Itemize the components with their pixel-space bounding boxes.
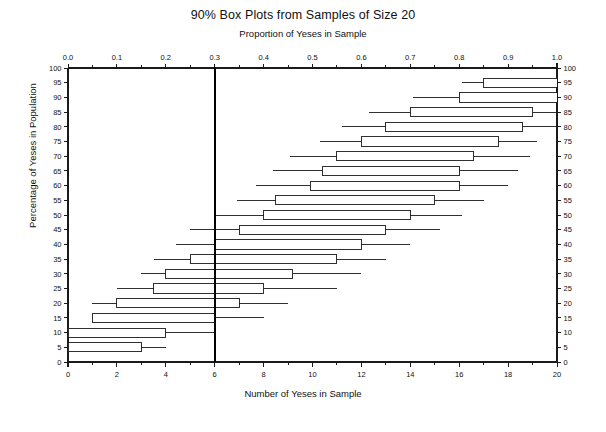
tick-label-right: 40 xyxy=(564,240,572,249)
tick-label-right: 80 xyxy=(564,123,572,132)
box-plot-row xyxy=(290,152,530,161)
tick-label-bottom: 14 xyxy=(406,370,414,379)
tick-label-bottom: 12 xyxy=(357,370,365,379)
tick-label-right: 50 xyxy=(564,211,572,220)
tick-label-top: 0.6 xyxy=(356,53,366,62)
box-rect xyxy=(484,78,557,87)
tick-label-right: 85 xyxy=(564,108,572,117)
tick-label-left: 85 xyxy=(53,108,61,117)
tick-label-left: 10 xyxy=(53,328,61,337)
box-plot-row xyxy=(342,122,557,131)
tick-label-left: 5 xyxy=(57,343,61,352)
box-plot-row xyxy=(176,240,411,249)
x-axis-label-bottom: Number of Yeses in Sample xyxy=(0,388,606,399)
box-rect xyxy=(322,166,459,175)
tick-label-top: 0.4 xyxy=(258,53,268,62)
tick-label-bottom: 20 xyxy=(553,370,561,379)
tick-label-bottom: 18 xyxy=(504,370,512,379)
box-plot-row xyxy=(273,166,518,175)
box-rect xyxy=(117,299,239,308)
tick-label-bottom: 10 xyxy=(308,370,316,379)
box-plot-row xyxy=(68,343,166,352)
tick-label-left: 40 xyxy=(53,240,61,249)
box-rect xyxy=(410,108,532,117)
box-rect xyxy=(166,269,293,278)
box-rect xyxy=(154,284,264,293)
tick-label-top: 0.0 xyxy=(63,53,73,62)
tick-label-left: 15 xyxy=(53,314,61,323)
tick-label-right: 70 xyxy=(564,152,572,161)
tick-label-bottom: 6 xyxy=(213,370,217,379)
box-plot-row xyxy=(190,225,439,234)
tick-label-top: 1.0 xyxy=(552,53,562,62)
tick-label-right: 60 xyxy=(564,181,572,190)
tick-label-bottom: 2 xyxy=(115,370,119,379)
tick-label-left: 65 xyxy=(53,167,61,176)
tick-label-right: 95 xyxy=(564,78,572,87)
box-rect xyxy=(264,210,411,219)
tick-label-right: 55 xyxy=(564,196,572,205)
tick-label-left: 95 xyxy=(53,78,61,87)
tick-label-left: 60 xyxy=(53,181,61,190)
box-rect xyxy=(68,343,141,352)
box-rect xyxy=(68,328,166,337)
tick-label-right: 30 xyxy=(564,270,572,279)
box-plot-figure: 90% Box Plots from Samples of Size 20 Pr… xyxy=(0,0,606,432)
box-rect xyxy=(239,225,386,234)
box-plot-row xyxy=(154,255,386,264)
tick-label-left: 20 xyxy=(53,299,61,308)
tick-label-left: 50 xyxy=(53,211,61,220)
tick-label-bottom: 16 xyxy=(455,370,463,379)
box-plot-row xyxy=(320,137,538,146)
box-rect xyxy=(459,93,557,102)
box-plot-row xyxy=(92,299,288,308)
box-rect xyxy=(215,240,362,249)
tick-label-top: 0.5 xyxy=(307,53,317,62)
box-rect xyxy=(276,196,435,205)
tick-label-right: 65 xyxy=(564,167,572,176)
tick-label-left: 45 xyxy=(53,225,61,234)
tick-label-left: 25 xyxy=(53,284,61,293)
tick-label-bottom: 4 xyxy=(164,370,168,379)
tick-label-bottom: 0 xyxy=(66,370,70,379)
tick-label-right: 90 xyxy=(564,93,572,102)
tick-label-right: 45 xyxy=(564,225,572,234)
tick-label-left: 75 xyxy=(53,137,61,146)
box-plot-row xyxy=(92,313,263,322)
tick-label-left: 80 xyxy=(53,123,61,132)
tick-label-top: 0.1 xyxy=(112,53,122,62)
box-rect xyxy=(310,181,459,190)
tick-label-left: 35 xyxy=(53,255,61,264)
tick-label-bottom: 8 xyxy=(262,370,266,379)
tick-label-top: 0.7 xyxy=(405,53,415,62)
tick-label-right: 75 xyxy=(564,137,572,146)
y-axis-label-left: Percentage of Yeses in Population xyxy=(27,66,38,246)
box-rect xyxy=(386,122,523,131)
tick-label-top: 0.3 xyxy=(209,53,219,62)
tick-label-left: 100 xyxy=(49,64,62,73)
tick-label-left: 0 xyxy=(57,358,61,367)
box-rect xyxy=(361,137,498,146)
tick-label-top: 0.8 xyxy=(454,53,464,62)
tick-label-right: 25 xyxy=(564,284,572,293)
box-plot-row xyxy=(256,181,508,190)
box-plot-row xyxy=(413,93,557,102)
box-plot-row xyxy=(215,210,462,219)
tick-label-right: 100 xyxy=(564,64,577,73)
tick-label-left: 90 xyxy=(53,93,61,102)
tick-label-right: 15 xyxy=(564,314,572,323)
tick-label-right: 0 xyxy=(564,358,568,367)
tick-label-top: 0.9 xyxy=(503,53,513,62)
box-plot-row xyxy=(462,78,557,87)
box-rect xyxy=(92,313,214,322)
box-plot-row xyxy=(68,328,215,337)
tick-label-right: 35 xyxy=(564,255,572,264)
plot-canvas: 0.00.10.20.30.40.50.60.70.80.91.00246810… xyxy=(0,0,606,432)
tick-label-left: 30 xyxy=(53,270,61,279)
tick-label-right: 20 xyxy=(564,299,572,308)
box-plot-row xyxy=(369,108,557,117)
tick-label-left: 70 xyxy=(53,152,61,161)
box-plot-row xyxy=(141,269,361,278)
tick-label-right: 5 xyxy=(564,343,568,352)
tick-label-top: 0.2 xyxy=(161,53,171,62)
